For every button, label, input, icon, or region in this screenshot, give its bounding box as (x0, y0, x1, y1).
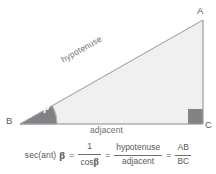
vertex-label-b: B (6, 116, 13, 126)
vertex-label-a: A (197, 6, 204, 16)
right-angle-marker (189, 110, 203, 124)
fraction1-denominator-symbol: β (94, 156, 99, 167)
angle-beta-symbol: β (43, 100, 49, 112)
fraction2-numerator: hypotenuse (114, 143, 162, 153)
fraction-ab-over-bc: AB BC (175, 143, 191, 167)
vertex-label-c: C (205, 120, 212, 130)
fraction-one-over-cos-beta: 1 cosβ (78, 142, 101, 168)
fraction2-denominator: adjacent (120, 157, 156, 167)
fraction3-numerator: AB (176, 143, 191, 153)
fraction1-denominator-text: cos (80, 157, 93, 167)
secant-formula: sec(ant) β = 1 cosβ = hypotenuse adjacen… (0, 139, 216, 171)
formula-equals-1: = (68, 150, 75, 160)
side-label-adjacent: adjacent (90, 126, 123, 135)
formula-function-name: sec(ant) (25, 151, 57, 160)
formula-equals-3: = (165, 150, 172, 160)
fraction3-denominator: BC (175, 157, 191, 167)
fraction1-denominator: cosβ (78, 156, 101, 168)
formula-angle-symbol: β (59, 149, 65, 161)
fraction1-bar (78, 154, 101, 155)
formula-equals-2: = (104, 150, 111, 160)
fraction-hypotenuse-over-adjacent: hypotenuse adjacent (114, 143, 162, 167)
fraction1-numerator: 1 (85, 142, 94, 152)
